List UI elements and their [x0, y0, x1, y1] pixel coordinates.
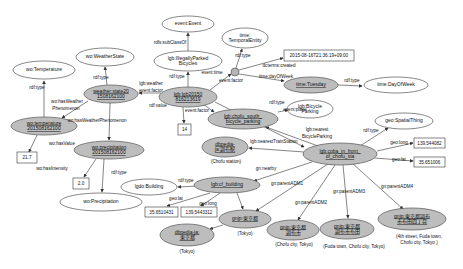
node-geo-spatialthing-class: geo:SpatialThing: [375, 113, 433, 129]
node-gnjp-chofu-instance: gnjp:東京都調布市: [267, 220, 319, 240]
edge-label: wo:hasWeatherPhenomenon: [67, 118, 127, 123]
edge-event-rdf-value: [183, 107, 184, 123]
node-label: ja:調布駅: [214, 146, 235, 153]
node-label: 201508162100: [27, 125, 61, 131]
node-lgb-event-instance: lgb:lgb20150816213619: [159, 87, 217, 107]
node-label: 東京都: [180, 234, 195, 241]
edge-label: rdfs:subClassOf: [154, 40, 187, 45]
edge-label: Phenomenon: [52, 106, 80, 111]
edge-label: event:time: [201, 70, 223, 75]
edge-building-to-gnjp-tokyo: [237, 193, 243, 209]
edge-label: event:factor: [139, 88, 163, 93]
literal-value: 35.651006: [419, 160, 441, 165]
node-label: 816213619: [175, 96, 200, 102]
node-label: 調布市: [286, 229, 301, 236]
edge-label: event:place: [283, 107, 307, 112]
edge-label: gn:parentADM1: [271, 181, 304, 186]
knowledge-graph-canvas: wo:Temperaturewo:WeatherStateevent:Event…: [0, 0, 463, 269]
caption-gnjp-fuda-caption: (Fuda town, Chofu city, Tokyo): [323, 244, 385, 249]
node-label: lgb:cf_building: [211, 181, 243, 187]
node-wo-temperature-class: wo:Temperature: [13, 61, 75, 79]
node-lgdo-building-class: lgdo:Building: [121, 179, 177, 195]
node-label: 調布市布田: [335, 228, 360, 235]
edge-label: rdf:type: [178, 178, 194, 183]
node-time-temporalentity-class: time:TemporalEntity: [222, 28, 268, 48]
node-label: wo:Precipitation: [83, 198, 119, 204]
edge-label: rdf:type: [111, 170, 127, 175]
edge-label: BicycleParking: [302, 134, 333, 139]
node-time-dayofweek-class: time:DayOfWeek: [364, 77, 428, 93]
node-gnjp-fuda-instance: gnjp:東京都調布市布田: [320, 219, 374, 239]
node-label: time:DayOfWeek: [377, 81, 415, 87]
caption-gnjp-fuda4-caption: Chofu city, Tokyo ): [400, 240, 438, 245]
literal-value: 35.6510431: [149, 210, 174, 215]
edge-label: dcterms:created: [263, 63, 296, 68]
rdf-graph-figure: wo:Temperaturewo:WeatherStateevent:Event…: [0, 0, 463, 269]
edge-coba-nearest-trainstation: [249, 148, 304, 152]
node-lgb-cf-building-instance: lgb:cf_building: [194, 177, 260, 193]
edge-label: geo:long: [199, 201, 217, 206]
edge-label: gn:nearby: [256, 166, 277, 171]
edge-label: event:factor: [185, 108, 209, 113]
node-label: Bicycles: [179, 60, 198, 66]
literal-bicycle-count-value: 14: [178, 124, 191, 135]
edge-precipitation-rdf-type: [102, 159, 104, 192]
node-wo-weatherstate-class: wo:WeatherState: [76, 48, 134, 66]
literal-value: 21.7: [23, 155, 32, 160]
edge-tuesday-rdf-type: [338, 85, 362, 86]
literal-created-datetime-value: 2015-08-16T21:36:19+09:00: [284, 50, 354, 61]
literal-coba-latitude-value: 35.651006: [414, 157, 445, 167]
edge-label: geo:lat: [169, 196, 184, 201]
node-label: bicycle_parking: [226, 118, 261, 124]
caption-chofu-station-caption: (Chofu station): [211, 159, 242, 164]
literal-temperature-value: 21.7: [17, 152, 37, 163]
edge-temperature-hasvalue: [29, 135, 37, 152]
node-label: lgdo:Building: [135, 183, 164, 189]
edge-label: rdf:type: [269, 100, 285, 105]
edge-label: rdf:type: [169, 74, 185, 79]
literal-coba-longitude-value: 139.544082: [414, 138, 445, 148]
edge-label: rdf:type: [29, 85, 45, 90]
node-label: of_chofu_sta: [326, 153, 355, 159]
node-wo-precipitation-class: wo:Precipitation: [60, 193, 142, 211]
edge-label: wo:hasValue: [49, 141, 75, 146]
edge-label: rdf:type: [363, 128, 379, 133]
edge-label: wo:hasIntensity: [36, 166, 68, 171]
edge-label: rdf:type: [93, 75, 109, 80]
node-label: wo:WeatherState: [86, 53, 124, 59]
caption-gnjp-tokyo-caption: (Tokyo): [237, 231, 253, 236]
edge-blank-rdf-type: [236, 49, 242, 68]
edge-coba-parent-adm2: [298, 165, 335, 220]
node-label: wo:Temperature: [26, 66, 62, 72]
edge-label: rdf:type: [344, 78, 360, 83]
edge-gnjp-tokyo-to-dbpedia: [210, 225, 223, 229]
node-chofu-south-parking-instance: lgb:chofu_south_bicycle_parking: [208, 109, 278, 129]
literal-value: 2.0: [78, 181, 85, 186]
node-event-event-class: event:Event: [162, 16, 214, 32]
node-wo-precipitation-instance: wo:precipitation201508162100: [74, 141, 144, 159]
edge-coba-gn-nearby: [254, 162, 312, 181]
node-label: gnjp:東京都: [232, 215, 258, 222]
literal-value: 139.5443312: [186, 210, 213, 215]
edge-label: lgb:nearestTrainStation: [250, 139, 298, 144]
node-lgb-coba-instance: lgb:coba_in_front_of_chofu_sta: [303, 143, 377, 165]
node-time-tuesday-instance: time:Tuesday: [284, 77, 338, 93]
literal-value: 139.544082: [417, 141, 442, 146]
edge-label: time:dayOfWeek: [259, 74, 294, 79]
edge-label: geo:long: [390, 140, 408, 145]
edge-label: wo:hasWeather: [51, 99, 83, 104]
edge-label: event:factor: [219, 78, 243, 83]
literal-value: 14: [182, 127, 188, 132]
edge-label: lgb:weather: [139, 81, 163, 86]
node-label: 201508162100: [92, 149, 126, 155]
node-time-blank-node: [231, 68, 239, 76]
node-label: time:Tuesday: [296, 81, 326, 87]
node-gnjp-tokyo-instance: gnjp:東京都: [219, 210, 271, 228]
node-dbpedia-chofu-station-instance: dbpedia-ja:調布駅: [202, 137, 248, 157]
literal-value: 2015-08-16T21:36:19+09:00: [290, 53, 349, 58]
edge-label: gn:parentADM4: [381, 184, 414, 189]
node-label: 1508162100: [97, 93, 125, 99]
blank-node-circle: [231, 68, 239, 76]
edge-label: gn:parentADM3: [333, 189, 366, 194]
edge-precipitation-hasintensity: [84, 159, 96, 177]
